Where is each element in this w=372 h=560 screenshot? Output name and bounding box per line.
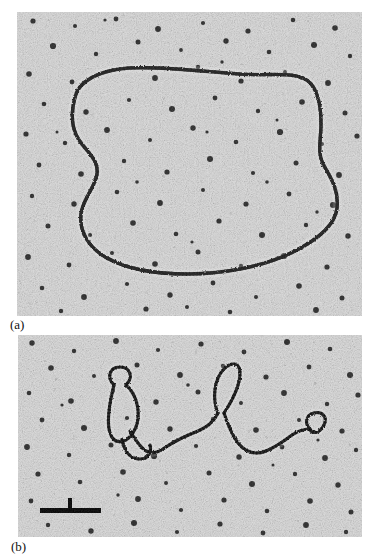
panel-b-image <box>18 335 362 537</box>
panel-a-label: (a) <box>10 318 24 331</box>
panel-a-image <box>17 12 362 316</box>
micrograph-figure: (a) <box>0 0 372 560</box>
micrograph-panel-a <box>17 12 362 316</box>
panel-b-label: (b) <box>11 540 26 553</box>
micrograph-panel-b <box>18 335 362 537</box>
